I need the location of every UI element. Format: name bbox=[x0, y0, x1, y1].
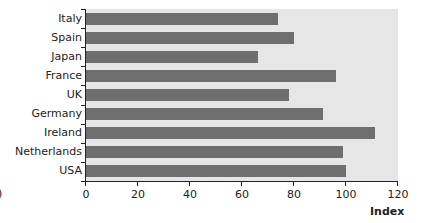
bar-italy bbox=[86, 13, 278, 25]
x-tick-label: 100 bbox=[331, 188, 361, 201]
y-tick-label: Spain bbox=[51, 32, 82, 44]
y-tick-label: UK bbox=[67, 89, 82, 101]
y-tick-mark bbox=[81, 66, 85, 67]
x-tick-mark bbox=[397, 182, 398, 186]
y-tick-mark bbox=[81, 9, 85, 10]
y-tick-label: USA bbox=[59, 165, 82, 177]
y-tick-mark bbox=[81, 124, 85, 125]
bar-france bbox=[86, 70, 336, 82]
cropped-edge-text: ) bbox=[0, 187, 2, 200]
y-tick-label: Italy bbox=[58, 13, 82, 25]
x-tick-label: 40 bbox=[175, 188, 205, 201]
x-tick-mark bbox=[345, 182, 346, 186]
y-tick-label: Ireland bbox=[44, 127, 82, 139]
x-tick-mark bbox=[85, 182, 86, 186]
y-tick-mark bbox=[81, 162, 85, 163]
bar-germany bbox=[86, 108, 323, 120]
y-tick-mark bbox=[81, 105, 85, 106]
y-tick-mark bbox=[81, 143, 85, 144]
x-tick-label: 60 bbox=[227, 188, 257, 201]
x-tick-label: 80 bbox=[279, 188, 309, 201]
x-axis-title: Index bbox=[370, 205, 404, 218]
x-tick-label: 20 bbox=[123, 188, 153, 201]
y-tick-mark bbox=[81, 28, 85, 29]
bar-usa bbox=[86, 165, 346, 177]
bar-spain bbox=[86, 32, 294, 44]
x-tick-mark bbox=[137, 182, 138, 186]
y-tick-label: Japan bbox=[51, 51, 82, 63]
x-tick-label: 120 bbox=[383, 188, 413, 201]
x-tick-mark bbox=[241, 182, 242, 186]
bar-uk bbox=[86, 89, 289, 101]
y-tick-label: Netherlands bbox=[15, 146, 82, 158]
y-tick-label: France bbox=[45, 70, 82, 82]
bar-netherlands bbox=[86, 146, 343, 158]
bar-ireland bbox=[86, 127, 375, 139]
y-tick-mark bbox=[81, 85, 85, 86]
y-tick-label: Germany bbox=[31, 108, 82, 120]
bar-japan bbox=[86, 51, 258, 63]
x-tick-label: 0 bbox=[71, 188, 101, 201]
x-tick-mark bbox=[189, 182, 190, 186]
y-tick-mark bbox=[81, 47, 85, 48]
x-tick-mark bbox=[293, 182, 294, 186]
